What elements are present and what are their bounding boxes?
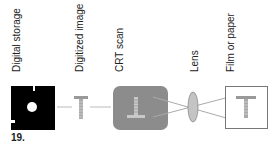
lens-icon <box>188 92 198 122</box>
diagram-graphics <box>0 0 273 144</box>
figure-number: 19. <box>11 132 25 143</box>
floppy-disk-icon <box>11 86 55 130</box>
film-paper-icon <box>226 87 268 129</box>
crt-screen-icon <box>113 86 168 130</box>
digitized-t-glyph-icon <box>74 96 88 119</box>
